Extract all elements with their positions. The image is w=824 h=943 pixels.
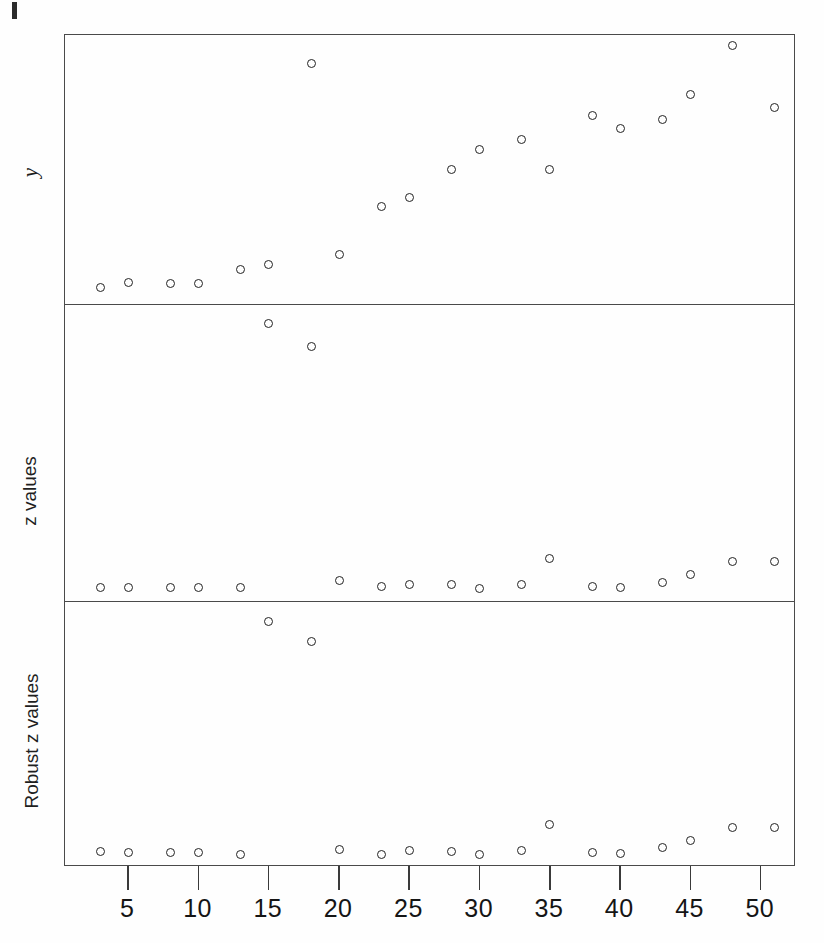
- data-point: [658, 578, 667, 587]
- x-axis-tick-label: 15: [253, 894, 282, 923]
- data-point: [236, 265, 245, 274]
- data-point: [405, 846, 414, 855]
- x-axis: 5101520253035404550: [64, 866, 795, 943]
- x-axis-tick-label: 40: [605, 894, 634, 923]
- x-axis-tick: [549, 866, 551, 890]
- data-point: [545, 820, 554, 829]
- data-point: [307, 637, 316, 646]
- data-point: [517, 580, 526, 589]
- panel-1-y-axis-label: y: [18, 153, 43, 193]
- data-point: [264, 319, 273, 328]
- panel-z-values-plot-area: [65, 305, 794, 601]
- data-point: [124, 848, 133, 857]
- data-point: [728, 41, 737, 50]
- data-point: [770, 103, 779, 112]
- data-point: [588, 111, 597, 120]
- data-point: [194, 279, 203, 288]
- data-point: [264, 260, 273, 269]
- x-axis-tick-label: 45: [675, 894, 704, 923]
- x-axis-tick: [690, 866, 692, 890]
- data-point: [377, 202, 386, 211]
- x-axis-tick: [479, 866, 481, 890]
- data-point: [588, 582, 597, 591]
- data-point: [475, 145, 484, 154]
- data-point: [377, 582, 386, 591]
- data-point: [405, 580, 414, 589]
- x-axis-tick: [760, 866, 762, 890]
- data-point: [335, 250, 344, 259]
- x-axis-tick: [338, 866, 340, 890]
- data-point: [166, 848, 175, 857]
- data-point: [194, 583, 203, 592]
- x-axis-tick: [198, 866, 200, 890]
- panel-robust-z-values-plot-area: [65, 602, 794, 865]
- data-point: [447, 580, 456, 589]
- data-point: [588, 848, 597, 857]
- x-axis-tick: [127, 866, 129, 890]
- data-point: [545, 165, 554, 174]
- data-point: [658, 843, 667, 852]
- data-point: [335, 576, 344, 585]
- data-point: [264, 617, 273, 626]
- panel-2-y-axis-label: z values: [19, 446, 41, 536]
- data-point: [616, 583, 625, 592]
- x-axis-tick: [268, 866, 270, 890]
- data-point: [658, 115, 667, 124]
- data-point: [124, 583, 133, 592]
- data-point: [475, 584, 484, 593]
- panel-y-plot-area: [65, 35, 794, 304]
- x-axis-tick: [408, 866, 410, 890]
- panel-z-values: [64, 304, 795, 602]
- data-point: [236, 850, 245, 859]
- data-point: [616, 124, 625, 133]
- data-point: [686, 90, 695, 99]
- panel-stack: [64, 34, 795, 866]
- data-point: [728, 823, 737, 832]
- data-point: [307, 342, 316, 351]
- data-point: [166, 583, 175, 592]
- data-point: [517, 135, 526, 144]
- data-point: [545, 554, 554, 563]
- registration-tick-icon: [12, 2, 17, 19]
- x-axis-tick-label: 25: [394, 894, 423, 923]
- data-point: [686, 570, 695, 579]
- data-point: [517, 846, 526, 855]
- x-axis-tick-label: 20: [324, 894, 353, 923]
- x-axis-tick-label: 10: [183, 894, 212, 923]
- x-axis-tick-label: 30: [464, 894, 493, 923]
- data-point: [447, 165, 456, 174]
- data-point: [728, 557, 737, 566]
- panel-3-y-axis-label: Robust z values: [21, 661, 43, 821]
- data-point: [96, 847, 105, 856]
- data-point: [686, 836, 695, 845]
- data-point: [307, 59, 316, 68]
- x-axis-tick-label: 50: [745, 894, 774, 923]
- data-point: [770, 557, 779, 566]
- data-point: [96, 283, 105, 292]
- figure-root: y z values Robust z values 5101520253035…: [0, 0, 824, 943]
- x-axis-tick: [619, 866, 621, 890]
- data-point: [124, 278, 133, 287]
- x-axis-tick-label: 35: [535, 894, 564, 923]
- data-point: [96, 583, 105, 592]
- data-point: [194, 848, 203, 857]
- data-point: [236, 583, 245, 592]
- data-point: [377, 850, 386, 859]
- data-point: [447, 847, 456, 856]
- data-point: [770, 823, 779, 832]
- data-point: [166, 279, 175, 288]
- data-point: [405, 193, 414, 202]
- x-axis-tick-label: 5: [120, 894, 134, 923]
- panel-robust-z-values: [64, 601, 795, 866]
- data-point: [616, 849, 625, 858]
- panel-y: [64, 34, 795, 305]
- data-point: [475, 850, 484, 859]
- data-point: [335, 845, 344, 854]
